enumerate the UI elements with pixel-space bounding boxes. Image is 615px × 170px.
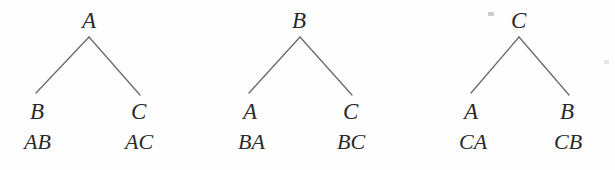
- tree-c-right-leaf-label: B: [560, 100, 574, 123]
- tree-c-right-edge: [519, 37, 569, 95]
- scan-speck-icon: [488, 12, 494, 16]
- tree-c-left-edge: [471, 37, 519, 93]
- tree-c-root-label: C: [511, 9, 526, 32]
- scan-speck-faint-icon: [604, 60, 609, 64]
- figure-canvas: A B C AB AC B A C BA BC C A B CA CB: [0, 0, 615, 170]
- tree-c-right-path-label: CB: [554, 131, 582, 153]
- tree-c-left-path-label: CA: [459, 131, 487, 153]
- tree-c-left-leaf-label: A: [464, 100, 478, 123]
